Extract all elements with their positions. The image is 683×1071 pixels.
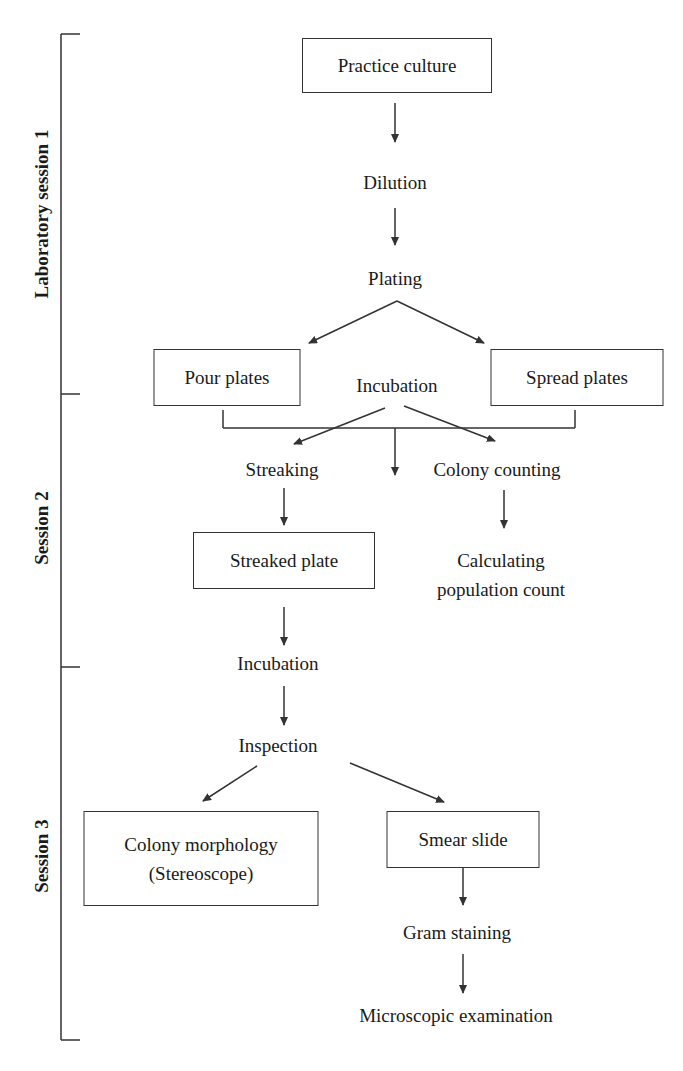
node-calculating-population-count: Calculating population count (437, 549, 565, 601)
node-smear-slide: Smear slide (387, 811, 540, 868)
node-label: Smear slide (418, 828, 507, 851)
session-label-laboratory-session-1: Laboratory session 1 (31, 130, 53, 299)
session-label-session-2: Session 2 (31, 491, 53, 564)
node-label: Streaked plate (230, 549, 338, 572)
node-label-line-1: Colony morphology (124, 833, 278, 856)
node-dilution: Dilution (363, 171, 426, 194)
node-label-line-2: (Stereoscope) (149, 862, 253, 885)
node-label: Pour plates (185, 366, 270, 389)
node-label-line-1: Calculating (437, 549, 565, 572)
node-colony-morphology: Colony morphology (Stereoscope) (84, 811, 319, 906)
node-microscopic-examination: Microscopic examination (359, 1004, 553, 1027)
node-label: Practice culture (338, 54, 457, 77)
node-colony-counting: Colony counting (433, 458, 560, 481)
node-gram-staining: Gram staining (403, 921, 511, 944)
node-label-line-2: population count (437, 578, 565, 601)
node-practice-culture: Practice culture (302, 38, 492, 93)
flowchart: Laboratory session 1 Session 2 Session 3… (0, 0, 683, 1071)
node-incubation-2: Incubation (237, 652, 318, 675)
node-pour-plates: Pour plates (154, 349, 301, 406)
node-inspection: Inspection (238, 734, 317, 757)
node-label: Spread plates (526, 366, 628, 389)
session-label-session-3: Session 3 (31, 819, 53, 892)
node-spread-plates: Spread plates (491, 349, 664, 406)
node-plating: Plating (368, 267, 422, 290)
node-streaked-plate: Streaked plate (193, 532, 375, 589)
node-streaking: Streaking (246, 458, 319, 481)
node-incubation-1: Incubation (356, 374, 437, 397)
